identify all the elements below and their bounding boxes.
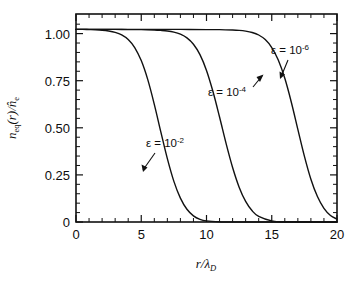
y-axis-title: neq(r)/n̂e [4,97,21,139]
plot-svg: 0 5 10 15 20 0 0.25 0.50 0.75 1.00 neq(r… [0,0,357,283]
curve-series-2 [76,29,337,219]
y-tick-label-3: 0.75 [45,74,70,89]
chart-figure-root: 0 5 10 15 20 0 0.25 0.50 0.75 1.00 neq(r… [0,0,357,283]
y-tick-label-2: 0.50 [45,121,70,136]
annotation-epsilon-1e-4: ε = 10-4 [208,75,264,99]
data-curves [76,29,337,222]
annotation-base-1e-6: ε = 10 [271,44,302,56]
curve-series-1 [76,29,337,222]
y-tick-label-1: 0.25 [45,168,70,183]
y-axis-title-arg: (r)/ [4,106,19,125]
annotation-exponent-1e-2: -2 [177,136,185,145]
annotation-epsilon-1e-6: ε = 10-6 [271,43,310,79]
annotation-label-1e-2: ε = 10-2 [146,136,185,149]
x-tick-label-1: 5 [138,227,145,242]
annotation-epsilon-1e-2: ε = 10-2 [142,136,185,172]
annotation-exponent-1e-6: -6 [302,43,310,52]
annotation-base-1e-2: ε = 10 [146,137,177,149]
x-tick-label-0: 0 [72,227,79,242]
y-tick-labels: 0 0.25 0.50 0.75 1.00 [45,27,70,230]
annotation-label-1e-6: ε = 10-6 [271,43,310,56]
x-tick-label-2: 10 [199,227,213,242]
annotation-base-1e-4: ε = 10 [208,86,239,98]
x-axis-title-sub-D: D [209,263,217,273]
y-tick-label-0: 0 [63,215,70,230]
y-axis-title-sub-e: e [11,97,21,101]
annotation-exponent-1e-4: -4 [239,85,247,94]
y-tick-label-4: 1.00 [45,27,70,42]
x-axis-title: r/λD [196,256,217,273]
x-tick-labels: 0 5 10 15 20 [72,227,344,242]
svg-text:neq(r)/n̂e: neq(r)/n̂e [4,97,21,139]
x-tick-label-3: 15 [265,227,279,242]
x-tick-label-4: 20 [330,227,344,242]
annotation-label-1e-4: ε = 10-4 [208,85,247,98]
curve-series-0 [76,29,337,222]
